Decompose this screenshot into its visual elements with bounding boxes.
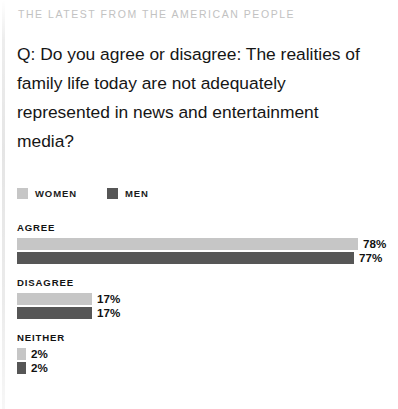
bar-women [17,293,92,305]
legend-label-men: MEN [125,188,149,199]
bar-row: 17% [17,293,387,305]
bar-group-label: DISAGREE [17,277,387,288]
bar-value-label: 17% [97,293,120,305]
bar-men [17,252,354,264]
bar-value-label: 2% [31,348,48,360]
bar-value-label: 17% [97,307,120,319]
bar-group: DISAGREE17%17% [17,277,387,319]
scan-edge-artifact [2,0,5,409]
bar-value-label: 2% [31,362,48,374]
bar-value-label: 78% [363,238,386,250]
legend-swatch-men-icon [107,188,118,199]
legend-label-women: WOMEN [35,188,77,199]
chart-legend: WOMEN MEN [17,188,179,199]
kicker-heading: THE LATEST FROM THE AMERICAN PEOPLE [18,8,295,20]
bar-row: 2% [17,362,387,374]
bar-men [17,307,92,319]
poll-chart-page: THE LATEST FROM THE AMERICAN PEOPLE Q: D… [0,0,398,409]
bar-women [17,348,26,360]
bar-group-label: NEITHER [17,332,387,343]
bar-value-label: 77% [359,252,382,264]
legend-swatch-women-icon [17,188,28,199]
bar-chart: AGREE78%77%DISAGREE17%17%NEITHER2%2% [17,222,387,387]
bar-men [17,362,26,374]
bar-row: 78% [17,238,387,250]
bar-row: 17% [17,307,387,319]
question-text: Q: Do you agree or disagree: The realiti… [17,40,369,156]
bar-women [17,238,358,250]
legend-item-men: MEN [107,188,149,199]
legend-item-women: WOMEN [17,188,77,199]
bar-group: NEITHER2%2% [17,332,387,374]
bar-row: 2% [17,348,387,360]
bar-group: AGREE78%77% [17,222,387,264]
bar-group-label: AGREE [17,222,387,233]
bar-row: 77% [17,252,387,264]
